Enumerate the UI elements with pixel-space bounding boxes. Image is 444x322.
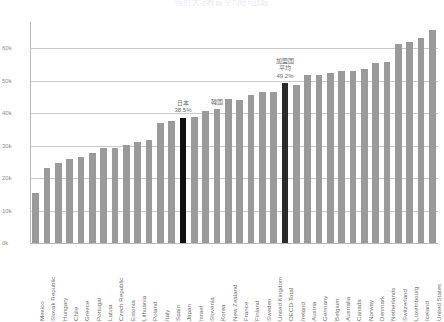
x-axis-label: United States [435, 284, 442, 321]
y-axis-tick-label: 50k [2, 78, 28, 84]
bar [372, 63, 378, 243]
bar [134, 142, 140, 243]
y-axis-tick-label: 10k [2, 208, 28, 214]
bar [361, 69, 367, 243]
bar [146, 140, 152, 243]
x-axis-label: Norway [367, 300, 374, 321]
x-axis-label: United Kingdom [276, 277, 283, 321]
bar [78, 157, 84, 243]
x-axis-label: Portugal [95, 298, 102, 321]
x-axis-label: Canada [355, 299, 362, 321]
x-axis-label: Luxembourg [412, 287, 419, 321]
bar [418, 38, 424, 243]
bar [350, 71, 356, 243]
annotation-line: 加盟国 [263, 58, 307, 66]
bar [282, 83, 288, 243]
bar [406, 42, 412, 244]
y-axis-tick-label: 0k [2, 240, 28, 246]
y-axis-tick-label: 60k [2, 45, 28, 51]
x-axis-label: Belgium [333, 299, 340, 321]
annotation-line: 韓国 [195, 99, 239, 107]
bar [123, 145, 129, 243]
x-axis-label: Poland [151, 302, 158, 321]
x-axis-label: Japan [185, 304, 192, 321]
x-axis-label: Ireland [299, 302, 306, 321]
bar [112, 148, 118, 243]
x-axis-labels: MexicoSlovak RepublicHungaryChileGreeceP… [30, 245, 438, 322]
bar [327, 73, 333, 243]
annotation-line: 平均 [263, 65, 307, 73]
x-axis-label: Iceland [423, 301, 430, 321]
bar [429, 30, 435, 243]
x-axis-label: Australia [344, 297, 351, 321]
bar [316, 75, 322, 243]
annotation-oecd-total: 加盟国平均49.2% [263, 58, 307, 81]
x-axis-label: Germany [321, 296, 328, 321]
x-axis-label: Italy [163, 310, 170, 321]
x-axis-label: Netherlands [389, 288, 396, 321]
bar [236, 100, 242, 243]
x-axis-label: Latvia [106, 304, 113, 321]
x-axis-label: OECD-Total [287, 288, 294, 321]
x-axis-label: Estonia [129, 300, 136, 321]
annotation-line: 49.2% [263, 73, 307, 81]
x-axis-label: Spain [174, 305, 181, 321]
bar-chart: 国別 大学教員 平均給与比較 0k10k20k30k40k50k60k Mexi… [0, 0, 444, 322]
bar [384, 62, 390, 243]
x-axis-label: Greece [83, 301, 90, 321]
bar [270, 92, 276, 243]
gridline [30, 243, 438, 244]
bar [100, 148, 106, 243]
x-axis-label: Switzerland [401, 289, 408, 321]
bar [248, 95, 254, 243]
bar [44, 168, 50, 243]
bar [259, 92, 265, 243]
bar [395, 44, 401, 243]
x-axis-label: Slovenia [208, 297, 215, 321]
x-axis-label: Chile [72, 307, 79, 321]
x-axis-label: Denmark [378, 296, 385, 321]
bar [66, 159, 72, 243]
chart-title: 国別 大学教員 平均給与比較 [0, 0, 444, 7]
x-axis-label: Austria [310, 302, 317, 321]
plot-area [30, 22, 438, 243]
bar [304, 75, 310, 243]
annotation-line: 38.5% [161, 107, 205, 115]
bar-series [30, 22, 438, 243]
bar [214, 109, 220, 243]
y-axis-tick-label: 20k [2, 175, 28, 181]
x-axis-label: Sweden [265, 299, 272, 321]
bar [168, 121, 174, 243]
x-axis-label: France [242, 302, 249, 321]
x-axis-label: Czech Republic [117, 278, 124, 321]
bar [191, 117, 197, 243]
bar [202, 111, 208, 243]
bar [338, 71, 344, 243]
y-axis-tick-label: 30k [2, 143, 28, 149]
bar [55, 163, 61, 243]
x-axis-label: Slovak Republic [49, 277, 56, 321]
annotation-korea: 韓国 [195, 99, 239, 107]
x-axis-label: Mexico [38, 301, 45, 321]
bar [293, 85, 299, 243]
x-axis-label: Finland [253, 301, 260, 321]
x-axis-label: New Zealand [231, 285, 238, 321]
x-axis-label: Israel [197, 306, 204, 321]
bar [225, 99, 231, 243]
bar [157, 123, 163, 243]
y-axis-tick-label: 40k [2, 110, 28, 116]
x-axis-label: Hungary [61, 298, 68, 321]
x-axis-label: Korea [219, 304, 226, 321]
x-axis-label: Lithuania [140, 296, 147, 321]
bar [89, 153, 95, 243]
bar [180, 118, 186, 243]
bar [32, 193, 38, 243]
